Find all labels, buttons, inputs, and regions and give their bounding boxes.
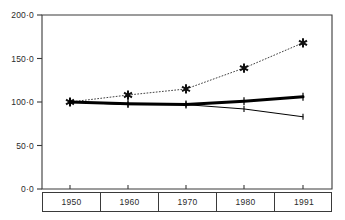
x-axis-label-cell: 1991: [275, 193, 333, 211]
y-axis-tick-label: 100·0: [11, 97, 34, 107]
x-axis-label-cell: 1960: [101, 193, 159, 211]
data-series-series-dotted-star: [66, 38, 307, 106]
line-chart: 0·050·0100·0150·0200·0 19501960197019801…: [0, 0, 345, 220]
y-axis-tick-label: 0·0: [21, 184, 34, 194]
x-axis-label-table: 19501960197019801991: [42, 192, 332, 212]
x-axis-label-cell: 1970: [159, 193, 217, 211]
y-axis-ticks: [37, 15, 42, 189]
x-axis-ticks: [70, 185, 303, 189]
data-series-group: [66, 38, 307, 120]
y-axis-tick-label: 150·0: [11, 54, 34, 64]
y-axis-tick-label: 50·0: [16, 141, 34, 151]
y-axis-tick-label: 200·0: [11, 10, 34, 20]
plot-area: [0, 0, 345, 220]
x-axis-label-cell: 1950: [43, 193, 101, 211]
x-axis-label-cell: 1980: [217, 193, 275, 211]
